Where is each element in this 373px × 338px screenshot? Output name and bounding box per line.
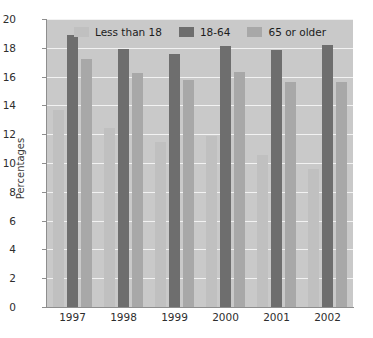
y-tick-label: 2 (0, 272, 16, 284)
x-tick-label: 2002 (302, 311, 353, 323)
bar-1998-65-or-older (132, 73, 143, 307)
gridline (47, 163, 353, 164)
x-tick-label: 1998 (98, 311, 149, 323)
y-tick-mark (42, 163, 47, 164)
gridline (47, 19, 353, 20)
plot-area (47, 19, 353, 307)
bar-2002-less-than-18 (308, 169, 319, 307)
y-tick-label: 0 (0, 301, 16, 313)
y-tick-mark (42, 48, 47, 49)
gridline (47, 134, 353, 135)
bar-1998-18-64 (118, 49, 129, 307)
legend-item-65-or-older[interactable]: 65 or older (247, 26, 326, 38)
y-tick-mark (42, 221, 47, 222)
gridline (47, 77, 353, 78)
y-tick-label: 16 (0, 71, 16, 83)
bar-2000-65-or-older (234, 72, 245, 307)
y-tick-label: 10 (0, 157, 16, 169)
legend-item-less-than-18[interactable]: Less than 18 (74, 26, 162, 38)
x-tick-label: 1997 (47, 311, 98, 323)
bar-1997-18-64 (67, 35, 78, 307)
gridline (47, 48, 353, 49)
y-tick-label: 8 (0, 186, 16, 198)
bar-2001-65-or-older (285, 82, 296, 307)
y-tick-label: 20 (0, 13, 16, 25)
bar-2000-less-than-18 (206, 136, 217, 307)
y-tick-mark (42, 105, 47, 106)
gridline (47, 105, 353, 106)
bar-1997-65-or-older (81, 59, 92, 307)
chart-container: Percentages Less than 1818-6465 or older… (0, 0, 373, 338)
x-tick-label: 2001 (251, 311, 302, 323)
y-tick-label: 6 (0, 215, 16, 227)
bar-1999-65-or-older (183, 80, 194, 307)
y-tick-mark (42, 249, 47, 250)
bar-2000-18-64 (220, 46, 231, 307)
bar-2001-less-than-18 (257, 155, 268, 307)
y-tick-mark (42, 134, 47, 135)
y-tick-mark (42, 192, 47, 193)
bar-2002-18-64 (322, 45, 333, 307)
x-tick-label: 2000 (200, 311, 251, 323)
legend-swatch-icon (74, 27, 89, 37)
y-tick-mark (42, 278, 47, 279)
bar-1999-18-64 (169, 54, 180, 307)
y-tick-label: 4 (0, 243, 16, 255)
legend-item-18-64[interactable]: 18-64 (179, 26, 231, 38)
y-tick-mark (42, 19, 47, 20)
legend-swatch-icon (179, 27, 194, 37)
bar-1997-less-than-18 (53, 110, 64, 307)
y-axis-title: Percentages (15, 109, 26, 229)
x-tick-label: 1999 (149, 311, 200, 323)
bar-1998-less-than-18 (104, 128, 115, 307)
chart-legend: Less than 1818-6465 or older (48, 23, 352, 40)
x-axis-line (46, 307, 354, 308)
y-tick-mark (42, 77, 47, 78)
bar-2001-18-64 (271, 50, 282, 307)
bar-1999-less-than-18 (155, 142, 166, 307)
y-tick-mark (42, 307, 47, 308)
y-tick-label: 14 (0, 99, 16, 111)
legend-swatch-icon (247, 27, 262, 37)
bar-2002-65-or-older (336, 82, 347, 307)
y-tick-label: 18 (0, 42, 16, 54)
legend-label: 65 or older (268, 26, 326, 38)
y-tick-label: 12 (0, 128, 16, 140)
legend-label: 18-64 (200, 26, 231, 38)
legend-label: Less than 18 (95, 26, 162, 38)
